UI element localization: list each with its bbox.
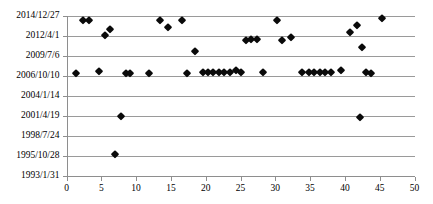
x-axis-tick-label: 15: [166, 184, 176, 194]
x-axis-tick-label: 35: [305, 184, 315, 194]
x-axis-tick: [275, 177, 276, 181]
y-axis-tick-label: 1995/10/28: [16, 151, 59, 161]
data-point: [337, 66, 345, 74]
x-axis-line: [67, 176, 415, 177]
y-axis-tick-label: 2009/7/6: [26, 51, 60, 61]
data-point: [102, 31, 110, 39]
data-point: [353, 21, 361, 29]
data-point: [178, 16, 186, 24]
x-axis-tick: [241, 177, 242, 181]
gridline: [67, 36, 415, 37]
gridline: [67, 16, 415, 17]
gridline: [67, 156, 415, 157]
y-axis-tick-label: 2012/4/1: [26, 31, 60, 41]
x-axis-tick: [345, 177, 346, 181]
x-axis-tick-label: 10: [131, 184, 141, 194]
y-axis-tick-label: 1998/7/24: [21, 131, 60, 141]
data-point: [111, 150, 119, 158]
y-axis-tick-label: 2004/1/14: [21, 91, 60, 101]
x-axis-tick-label: 25: [236, 184, 246, 194]
scatter-chart: 1993/1/311995/10/281998/7/242001/4/19200…: [0, 0, 433, 204]
x-axis-tick: [136, 177, 137, 181]
data-point: [287, 33, 295, 41]
x-axis-tick-label: 5: [99, 184, 104, 194]
data-point: [85, 16, 93, 24]
x-axis-tick-label: 50: [410, 184, 420, 194]
x-axis-tick-label: 20: [201, 184, 211, 194]
data-point: [278, 36, 286, 44]
x-axis-tick: [67, 177, 68, 181]
data-point: [164, 23, 172, 31]
data-point: [95, 67, 103, 75]
x-axis-tick: [101, 177, 102, 181]
data-point: [358, 43, 366, 51]
x-axis-tick: [310, 177, 311, 181]
data-point: [118, 112, 126, 120]
x-axis-tick-label: 30: [271, 184, 281, 194]
y-axis-line: [67, 16, 68, 176]
gridline: [67, 96, 415, 97]
y-axis-tick-label: 2006/10/10: [16, 71, 59, 81]
y-axis-tick-label: 2014/12/27: [16, 11, 59, 21]
x-axis-tick-label: 0: [64, 184, 69, 194]
x-axis-tick: [171, 177, 172, 181]
data-point: [191, 47, 199, 55]
x-axis-tick: [380, 177, 381, 181]
x-axis-tick-label: 45: [375, 184, 385, 194]
x-axis-tick: [206, 177, 207, 181]
x-axis-tick: [415, 177, 416, 181]
gridline: [67, 56, 415, 57]
x-axis-tick-label: 40: [340, 184, 350, 194]
data-point: [156, 16, 164, 24]
y-axis-tick-label: 2001/4/19: [21, 111, 60, 121]
data-point: [273, 16, 281, 24]
y-axis-tick-label: 1993/1/31: [21, 171, 60, 181]
gridline: [67, 136, 415, 137]
